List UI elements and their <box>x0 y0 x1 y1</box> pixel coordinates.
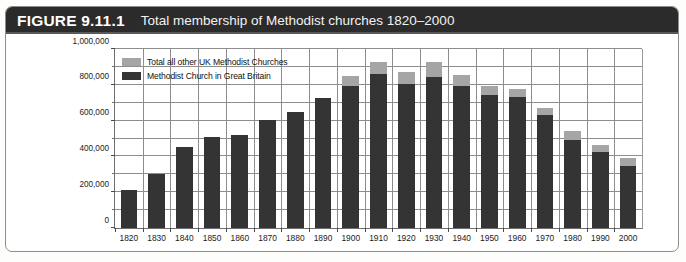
legend-item-great-britain: Methodist Church in Great Britain <box>122 70 288 81</box>
figure-container: FIGURE 9.11.1 Total membership of Method… <box>0 0 686 262</box>
legend-swatch-icon-great-britain <box>122 72 141 80</box>
figure-frame <box>5 6 679 252</box>
figure-caption: Total membership of Methodist churches 1… <box>141 13 455 28</box>
figure-number: FIGURE 9.11.1 <box>17 12 125 30</box>
legend-item-other-uk: Total all other UK Methodist Churches <box>122 56 288 67</box>
legend-label-great-britain: Methodist Church in Great Britain <box>147 71 271 81</box>
legend-label-other-uk: Total all other UK Methodist Churches <box>147 57 288 67</box>
chart-legend: Total all other UK Methodist Churches Me… <box>122 56 288 84</box>
figure-title-banner: FIGURE 9.11.1 Total membership of Method… <box>6 7 678 34</box>
legend-swatch-icon-other-uk <box>122 58 141 66</box>
